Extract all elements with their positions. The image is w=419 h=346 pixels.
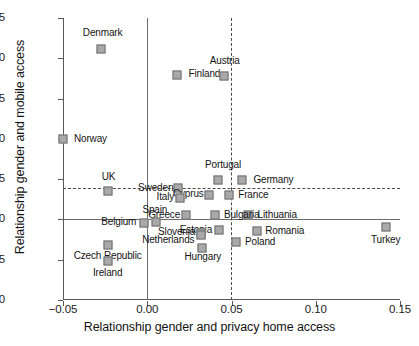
data-point-label: Romania bbox=[265, 226, 304, 236]
data-point-marker bbox=[96, 45, 105, 54]
y-tick-label: −0.10 bbox=[0, 293, 5, 305]
data-point-label: Netherlands bbox=[142, 235, 194, 245]
reference-line-mean-horizontal bbox=[63, 188, 400, 189]
data-point-marker bbox=[224, 191, 233, 200]
data-point-label: Germany bbox=[253, 175, 293, 185]
y-tick-mark bbox=[58, 260, 63, 261]
x-tick-label: 0.15 bbox=[389, 303, 411, 315]
data-point-marker bbox=[214, 175, 223, 184]
data-point-marker bbox=[204, 191, 213, 200]
data-point-label: France bbox=[238, 190, 268, 200]
x-tick-label: 0.05 bbox=[221, 303, 243, 315]
data-point-label: Ireland bbox=[93, 268, 123, 278]
x-tick-label: 0.00 bbox=[136, 303, 158, 315]
y-tick-mark bbox=[58, 18, 63, 19]
data-point-marker bbox=[176, 193, 185, 202]
y-tick-label: 0.15 bbox=[0, 92, 5, 104]
data-point-label: Poland bbox=[245, 237, 275, 247]
data-point-label: Norway bbox=[74, 134, 107, 144]
data-point-label: Lithuania bbox=[258, 210, 297, 220]
x-axis-title: Relationship gender and privacy home acc… bbox=[0, 320, 419, 334]
data-point-marker bbox=[182, 211, 191, 220]
y-axis-spine bbox=[63, 18, 64, 300]
data-point-marker bbox=[238, 176, 247, 185]
y-tick-label: 0.05 bbox=[0, 172, 5, 184]
data-point-marker bbox=[214, 225, 223, 234]
data-point-marker bbox=[252, 227, 261, 236]
data-point-marker bbox=[210, 210, 219, 219]
y-tick-label: 0.20 bbox=[0, 51, 5, 63]
data-point-marker bbox=[172, 70, 181, 79]
data-point-label: Austria bbox=[210, 56, 240, 66]
data-point-marker bbox=[381, 223, 390, 232]
y-tick-label: −0.00 bbox=[0, 212, 5, 224]
data-point-label: Turkey bbox=[371, 235, 400, 245]
data-point-marker bbox=[231, 237, 240, 246]
data-point-marker bbox=[103, 186, 112, 195]
y-tick-mark bbox=[58, 58, 63, 59]
data-point-marker bbox=[59, 135, 68, 144]
y-tick-mark bbox=[58, 179, 63, 180]
data-point-label: Bulgaria bbox=[224, 210, 260, 220]
data-point-label: Hungary bbox=[184, 252, 221, 262]
data-point-marker bbox=[139, 218, 148, 227]
y-tick-label: −0.05 bbox=[0, 253, 5, 265]
y-tick-label: 0.10 bbox=[0, 132, 5, 144]
data-point-label: Portugal bbox=[205, 160, 241, 170]
y-tick-label: 0.25 bbox=[0, 11, 5, 23]
reference-line-zero-vertical bbox=[147, 18, 148, 300]
data-point-label: UK bbox=[102, 172, 116, 182]
data-point-label: Finland bbox=[189, 69, 221, 79]
data-point-marker bbox=[104, 241, 113, 250]
plot-area: DenmarkFinlandAustriaNorwayPortugalGerma… bbox=[63, 18, 400, 300]
data-point-label: Italy bbox=[157, 192, 175, 202]
data-point-marker bbox=[219, 72, 228, 81]
data-point-label: Spain bbox=[142, 205, 167, 215]
scatter-chart: DenmarkFinlandAustriaNorwayPortugalGerma… bbox=[0, 0, 419, 346]
data-point-label: Belgium bbox=[101, 217, 136, 227]
x-tick-label: 0.10 bbox=[305, 303, 327, 315]
data-point-marker bbox=[104, 257, 113, 266]
x-tick-label: −0.05 bbox=[49, 303, 78, 315]
y-tick-mark bbox=[58, 219, 63, 220]
data-point-marker bbox=[197, 230, 206, 239]
y-tick-mark bbox=[58, 99, 63, 100]
data-point-label: Denmark bbox=[83, 28, 123, 38]
y-axis-title: Relationship gender and mobile access bbox=[13, 0, 27, 297]
